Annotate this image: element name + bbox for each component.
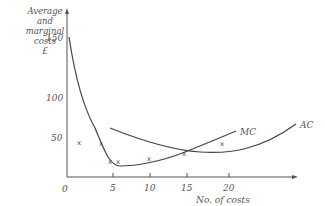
x-tick-label: 20 bbox=[222, 183, 235, 193]
y-axis-arrow-icon bbox=[65, 8, 69, 14]
x-axis-arrow-icon bbox=[292, 175, 298, 179]
x-axis-label: No. of costs bbox=[195, 195, 250, 205]
mc-curve bbox=[69, 37, 236, 166]
x-marker: x bbox=[108, 158, 112, 166]
x-tick-label: 15 bbox=[181, 183, 193, 193]
x-tick-label: 0 bbox=[62, 184, 68, 194]
x-marker: x bbox=[99, 140, 103, 148]
x-tick-label: 5 bbox=[110, 183, 116, 193]
y-tick-labels: 150 100 50 bbox=[46, 33, 63, 143]
x-marker: x bbox=[182, 150, 186, 158]
x-marker: x bbox=[220, 140, 224, 148]
x-tick-label: 10 bbox=[144, 183, 156, 193]
x-marker: x bbox=[77, 139, 81, 147]
x-marker: x bbox=[116, 158, 120, 166]
x-tick-labels: 0 5 10 15 20 bbox=[62, 183, 235, 194]
y-tick-label: 100 bbox=[46, 93, 63, 103]
ac-curve bbox=[110, 124, 296, 152]
x-marker: x bbox=[147, 155, 151, 163]
y-tick-label: 150 bbox=[46, 33, 63, 43]
cost-chart: 0 5 10 15 20 No. of costs 150 100 50 MC … bbox=[0, 0, 325, 206]
mc-label: MC bbox=[239, 127, 256, 137]
y-tick-label: 50 bbox=[51, 133, 63, 143]
ac-label: AC bbox=[299, 120, 313, 130]
